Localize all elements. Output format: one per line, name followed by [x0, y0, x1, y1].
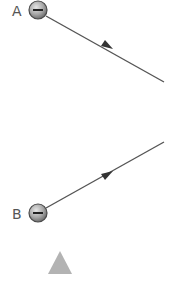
- trajectory-a: [46, 16, 164, 82]
- charge-a: A: [12, 1, 47, 19]
- charge-b: B: [12, 204, 47, 222]
- trajectory-a-line: [46, 16, 164, 82]
- label-a: A: [12, 3, 22, 19]
- triangle-marker-icon: [48, 251, 72, 274]
- label-b: B: [12, 206, 22, 222]
- trajectory-b: [46, 142, 164, 208]
- arrow-b-icon: [101, 171, 113, 180]
- diagram-canvas: A B: [0, 0, 185, 284]
